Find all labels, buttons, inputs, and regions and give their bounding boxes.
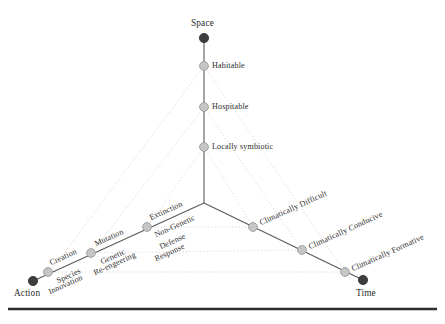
diagram-figure: Space Habitable Hospitable Locally symbi…	[0, 0, 445, 324]
node-climatically-conducive[interactable]	[298, 246, 307, 255]
node-time-endpoint[interactable]	[358, 275, 367, 284]
node-action-endpoint[interactable]	[28, 276, 37, 285]
node-climatically-formative[interactable]	[341, 268, 350, 277]
node-mutation[interactable]	[87, 249, 96, 258]
node-climatically-difficult[interactable]	[249, 223, 258, 232]
label-action-endpoint: Action	[14, 288, 40, 299]
node-creation[interactable]	[44, 268, 53, 277]
node-habitable[interactable]	[200, 62, 209, 71]
node-hospitable[interactable]	[200, 103, 209, 112]
label-time-endpoint: Time	[356, 288, 376, 299]
node-extinction[interactable]	[143, 223, 152, 232]
label-hospitable: Hospitable	[212, 102, 249, 112]
node-space-endpoint[interactable]	[199, 33, 208, 42]
node-locally-symbiotic[interactable]	[200, 143, 209, 152]
label-locally-symbiotic: Locally symbiotic	[212, 142, 273, 152]
label-habitable: Habitable	[212, 61, 245, 71]
label-space-endpoint: Space	[191, 18, 214, 29]
